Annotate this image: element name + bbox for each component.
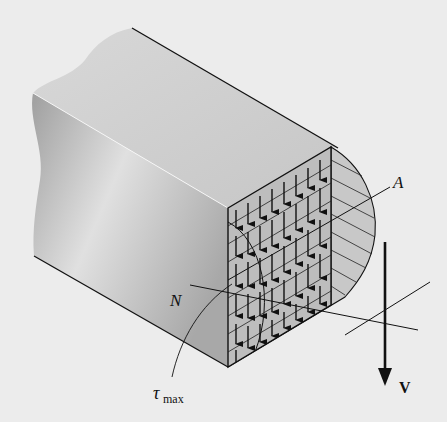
label-v: V [399,379,411,396]
label-tau-subscript: max [163,392,184,406]
crossing-axis-line [345,282,430,335]
shear-force-arrowhead [378,368,392,386]
label-a: A [392,173,404,192]
beam-shear-diagram: A N τ max V [0,0,447,422]
label-n: N [169,291,183,310]
label-tau: τ [153,383,160,403]
